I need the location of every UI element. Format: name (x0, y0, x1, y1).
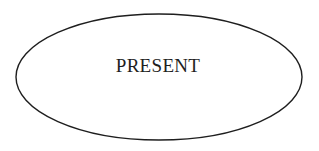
present-node-label: PRESENT (0, 55, 316, 77)
present-ellipse-node (16, 14, 302, 140)
